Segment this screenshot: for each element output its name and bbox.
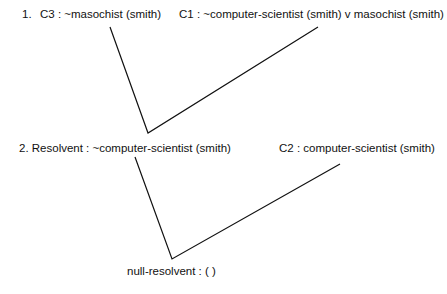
clause-c2: C2 : computer-scientist (smith) [279,141,435,155]
resolution-diagram: 1. C3 : ~masochist (smith) C1 : ~compute… [0,0,447,294]
clause-c1: C1 : ~computer-scientist (smith) v masoc… [179,7,444,21]
step1-number: 1. [22,7,32,21]
step1-connector [110,27,318,133]
null-resolvent: null-resolvent : ( ) [127,264,216,278]
step2-connector [135,157,340,259]
clause-c3: C3 : ~masochist (smith) [40,7,161,21]
resolvent-clause: 2. Resolvent : ~computer-scientist (smit… [19,141,231,155]
